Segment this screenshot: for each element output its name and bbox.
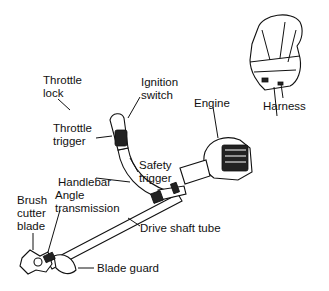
label-throttle-trigger: Throttle trigger	[53, 122, 92, 148]
leader-engine	[213, 107, 218, 138]
label-harness: Harness	[263, 100, 306, 113]
engine-illustration	[180, 138, 252, 184]
label-brush-cutter-blade: Brush cutter blade	[17, 194, 47, 233]
leader-throttle-trigger	[96, 136, 112, 138]
diagram-artwork	[0, 0, 329, 291]
label-safety-trigger: Safety trigger	[139, 159, 172, 185]
leader-throttle-lock	[58, 99, 70, 110]
leader-angle-transmission	[48, 210, 60, 252]
label-ignition-switch: Ignition switch	[141, 76, 178, 102]
leader-ignition-switch	[128, 97, 140, 118]
label-engine: Engine	[194, 97, 230, 110]
brush-cutter-diagram: Throttle lock Ignition switch Throttle t…	[0, 0, 329, 291]
label-drive-shaft-tube: Drive shaft tube	[140, 222, 221, 235]
label-throttle-lock: Throttle lock	[43, 74, 82, 100]
label-handlebar: Handlebar	[58, 176, 111, 189]
harness-illustration	[250, 15, 302, 98]
throttle-grip-illustration	[110, 114, 128, 150]
label-angle-transmission: Angle transmission	[55, 189, 120, 215]
label-blade-guard: Blade guard	[97, 262, 159, 275]
